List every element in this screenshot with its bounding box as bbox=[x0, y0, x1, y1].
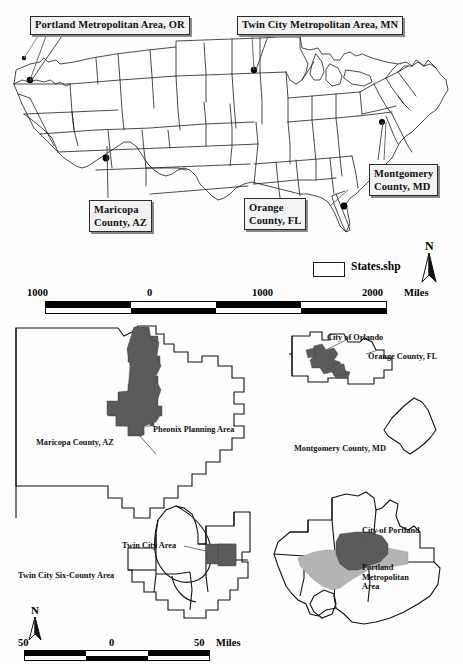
scale-seg bbox=[301, 308, 386, 314]
scale-bar-inset bbox=[24, 650, 210, 661]
callout-twincity[interactable]: Twin City Metropolitan Area, MN bbox=[237, 16, 403, 35]
callout-twincity-label: Twin City Metropolitan Area, MN bbox=[242, 19, 398, 30]
legend-swatch-states bbox=[313, 262, 345, 277]
scale-seg bbox=[25, 656, 86, 661]
callout-portland[interactable]: Portland Metropolitan Area, OR bbox=[30, 16, 190, 35]
inset-portland-county-label: Portland Metropolitan Area bbox=[362, 563, 426, 592]
callout-orange-line1: Orange bbox=[249, 201, 301, 214]
scale-bar-national bbox=[45, 301, 387, 314]
inset-twincity-feature-label: Twin City Area bbox=[122, 541, 176, 551]
north-arrow-label-national: N bbox=[425, 239, 434, 254]
callout-maricopa-line1: Maricopa bbox=[94, 203, 147, 216]
callout-montgomery[interactable]: Montgomery County, MD bbox=[369, 164, 438, 196]
map-figure: Portland Metropolitan Area, OR Twin City… bbox=[0, 0, 463, 664]
callout-portland-label: Portland Metropolitan Area, OR bbox=[35, 19, 185, 30]
inset-orange-county-label: Orange County, FL bbox=[368, 352, 437, 362]
scale-bar-row-bottom bbox=[25, 656, 209, 661]
scale-seg bbox=[148, 656, 209, 661]
inset-map-montgomery bbox=[370, 396, 450, 466]
inset-orange-feature-label: City of Orlando bbox=[327, 333, 383, 343]
callout-montgomery-line1: Montgomery bbox=[374, 167, 433, 180]
inset-montgomery-county-label: Montgomery County, MD bbox=[294, 444, 386, 454]
legend-label-states: States.shp bbox=[351, 260, 401, 272]
inset-map-twincity bbox=[110, 500, 250, 625]
callout-leader-lines bbox=[0, 0, 463, 260]
inset-map-portland bbox=[248, 492, 448, 632]
inset-maricopa-feature-label: Pheonix Planning Area bbox=[153, 425, 234, 435]
scale-tick-national-0: 1000 bbox=[27, 287, 48, 298]
scale-tick-inset-1: 0 bbox=[109, 637, 114, 648]
scale-seg bbox=[46, 308, 131, 314]
scale-seg bbox=[131, 308, 216, 314]
scale-seg bbox=[86, 656, 147, 661]
scale-seg bbox=[216, 308, 301, 314]
inset-maricopa-county-label: Maricopa County, AZ bbox=[36, 438, 114, 448]
scale-tick-national-3: 2000 bbox=[362, 287, 383, 298]
callout-orange-line2: County, FL bbox=[249, 214, 301, 227]
inset-portland-feature-label: City of Portland bbox=[362, 526, 420, 536]
scale-tick-inset-2: 50 bbox=[194, 637, 205, 648]
north-arrow-label-inset: N bbox=[31, 604, 39, 616]
scale-tick-national-2: 1000 bbox=[252, 287, 273, 298]
callout-orange[interactable]: Orange County, FL bbox=[244, 198, 306, 230]
scale-unit-national: Miles bbox=[404, 287, 429, 298]
callout-montgomery-line2: County, MD bbox=[374, 180, 433, 193]
north-arrow-national bbox=[418, 253, 440, 283]
inset-twincity-county-label: Twin City Six-County Area bbox=[18, 571, 114, 581]
scale-tick-inset-0: 50 bbox=[18, 637, 29, 648]
scale-bar-row-bottom bbox=[46, 308, 386, 314]
scale-tick-national-1: 0 bbox=[147, 287, 152, 298]
north-arrow-inset bbox=[26, 617, 44, 641]
callout-maricopa[interactable]: Maricopa County, AZ bbox=[89, 200, 152, 232]
callout-maricopa-line2: County, AZ bbox=[94, 216, 147, 229]
scale-unit-inset: Miles bbox=[216, 637, 241, 648]
